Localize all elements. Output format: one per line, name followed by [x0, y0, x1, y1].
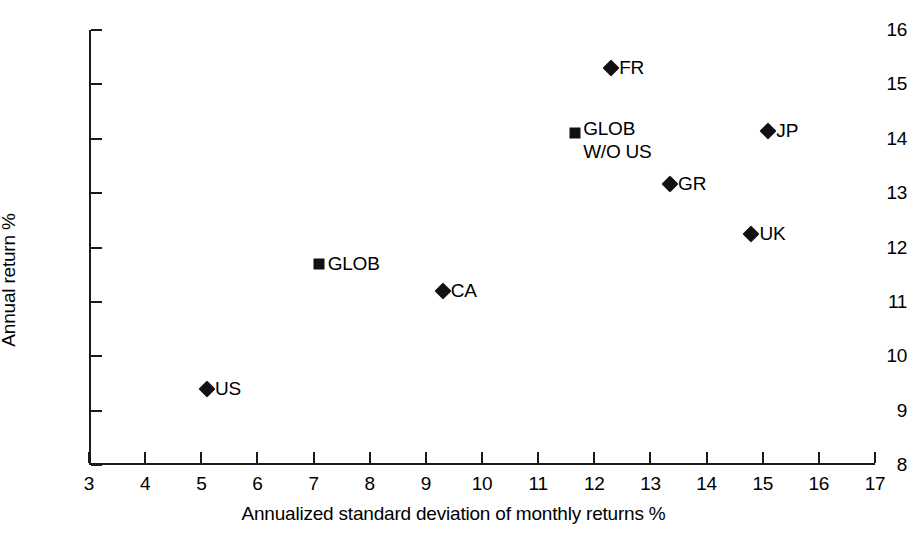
x-tick-label: 16 — [809, 474, 830, 493]
y-tick-label: 16 — [828, 20, 907, 39]
y-tick-label: 12 — [828, 238, 907, 257]
diamond-marker-icon — [603, 60, 620, 77]
data-point-jp: JP — [762, 125, 774, 137]
data-point-ca: CA — [437, 285, 449, 297]
y-tick — [91, 410, 102, 412]
diamond-marker-icon — [743, 225, 760, 242]
data-point-label: FR — [619, 57, 644, 79]
x-tick — [762, 452, 764, 463]
x-tick — [88, 452, 90, 463]
y-tick — [91, 247, 102, 249]
y-tick — [91, 464, 102, 466]
y-axis-title: Annual return % — [0, 140, 20, 420]
x-tick — [425, 452, 427, 463]
y-tick-label: 9 — [828, 401, 907, 420]
square-marker-icon — [314, 258, 325, 269]
square-marker-icon — [569, 128, 580, 139]
data-point-us: US — [201, 383, 213, 395]
data-point-label: US — [215, 378, 241, 400]
x-tick — [593, 452, 595, 463]
x-tick-label: 12 — [584, 474, 605, 493]
y-tick — [91, 83, 102, 85]
data-point-label: GR — [678, 173, 706, 195]
data-point-glob: GLOB — [314, 258, 325, 269]
y-tick — [91, 192, 102, 194]
x-axis-title: Annualized standard deviation of monthly… — [0, 503, 907, 525]
data-point-label: GLOB — [328, 253, 380, 275]
x-tick — [537, 452, 539, 463]
x-tick — [256, 452, 258, 463]
x-tick-label: 6 — [252, 474, 262, 493]
data-point-fr: FR — [605, 62, 617, 74]
x-tick — [200, 452, 202, 463]
data-point-label: UK — [759, 223, 785, 245]
x-tick-label: 11 — [529, 474, 548, 493]
y-tick — [91, 29, 102, 31]
data-point-label: GLOB W/O US — [583, 117, 651, 163]
y-tick-label: 11 — [828, 292, 907, 311]
x-tick-label: 7 — [308, 474, 318, 493]
x-tick-label: 9 — [421, 474, 431, 493]
x-tick-label: 14 — [696, 474, 717, 493]
y-tick — [91, 138, 102, 140]
x-axis-line — [89, 463, 875, 465]
scatter-chart-figure: USGLOBCAGLOB W/O USFRGRUKJP 891011121314… — [0, 0, 907, 540]
x-tick-label: 3 — [84, 474, 94, 493]
y-tick — [91, 301, 102, 303]
x-tick — [818, 452, 820, 463]
diamond-marker-icon — [434, 283, 451, 300]
diamond-marker-icon — [198, 380, 215, 397]
x-tick — [481, 452, 483, 463]
y-tick-label: 14 — [828, 129, 907, 148]
y-tick-label: 15 — [828, 74, 907, 93]
x-tick-label: 10 — [472, 474, 493, 493]
x-tick-label: 15 — [752, 474, 773, 493]
x-tick — [313, 452, 315, 463]
x-tick — [144, 452, 146, 463]
data-point-glob-w-o-us: GLOB W/O US — [569, 128, 580, 139]
y-tick-label: 8 — [828, 455, 907, 474]
x-tick-label: 5 — [196, 474, 206, 493]
y-tick-label: 13 — [828, 183, 907, 202]
y-tick — [91, 355, 102, 357]
x-tick — [369, 452, 371, 463]
plot-area: USGLOBCAGLOB W/O USFRGRUKJP — [89, 30, 875, 465]
data-point-label: CA — [451, 280, 477, 302]
data-point-gr: GR — [664, 178, 676, 190]
data-point-label: JP — [776, 120, 798, 142]
diamond-marker-icon — [760, 123, 777, 140]
diamond-marker-icon — [662, 175, 679, 192]
x-tick-label: 13 — [640, 474, 661, 493]
x-tick — [649, 452, 651, 463]
y-tick-label: 10 — [828, 346, 907, 365]
data-point-uk: UK — [745, 228, 757, 240]
x-tick-label: 4 — [140, 474, 150, 493]
x-tick-label: 17 — [865, 474, 886, 493]
x-tick-label: 8 — [365, 474, 375, 493]
x-tick — [706, 452, 708, 463]
